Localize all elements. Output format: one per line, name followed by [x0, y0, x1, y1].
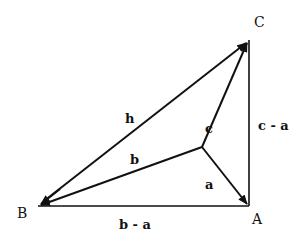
- edge-b: [41, 147, 202, 205]
- edge-label-c: c: [205, 121, 213, 136]
- edge-h: [44, 43, 246, 201]
- edge-label-b-minus-a: b - a: [119, 217, 152, 232]
- edge-label-b: b: [130, 152, 139, 167]
- vertex-label-c: C: [254, 14, 265, 30]
- vector-triangle-diagram: C B A h b c a c - a b - a: [0, 0, 298, 241]
- vertex-label-a: A: [251, 211, 263, 227]
- edge-label-h: h: [125, 111, 135, 126]
- edge-label-a: a: [205, 177, 214, 192]
- vertex-label-b: B: [17, 205, 27, 221]
- edge-label-c-minus-a: c - a: [258, 118, 289, 133]
- edge-a: [202, 147, 247, 204]
